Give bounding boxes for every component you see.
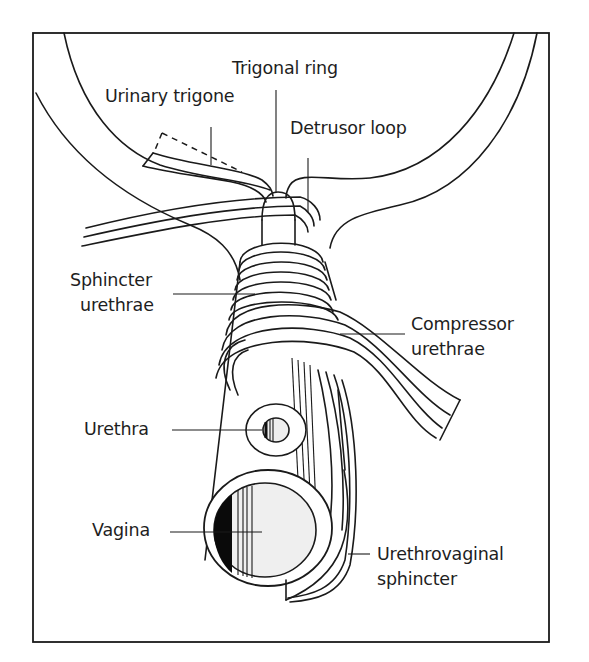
label-urethra: Urethra	[84, 417, 149, 442]
vagina-cross-section	[204, 470, 332, 586]
label-sphincter-urethrae: Sphincter urethrae	[70, 268, 154, 318]
anatomy-figure: Trigonal ring Urinary trigone Detrusor l…	[0, 0, 589, 662]
label-compressor-urethrae: Compressor urethrae	[411, 312, 514, 362]
label-urethrovaginal-line1: Urethrovaginal	[377, 542, 504, 567]
label-detrusor-loop: Detrusor loop	[290, 116, 407, 141]
transverse-fibers	[82, 197, 320, 246]
label-sphincter-urethrae-line2: urethrae	[80, 293, 154, 318]
label-urethrovaginal-line2: sphincter	[377, 567, 504, 592]
label-vagina: Vagina	[92, 518, 150, 543]
label-trigonal-ring: Trigonal ring	[232, 56, 338, 81]
label-urinary-trigone: Urinary trigone	[105, 84, 234, 109]
label-sphincter-urethrae-line1: Sphincter	[70, 268, 154, 293]
label-urethrovaginal-sphincter: Urethrovaginal sphincter	[377, 542, 504, 592]
label-compressor-urethrae-line2: urethrae	[411, 337, 514, 362]
urinary-trigone-band	[143, 133, 273, 202]
trigonal-ring	[262, 192, 295, 245]
label-compressor-urethrae-line1: Compressor	[411, 312, 514, 337]
